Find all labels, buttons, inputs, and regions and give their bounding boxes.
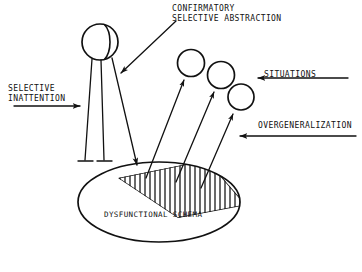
label-confirmatory-line2: SELECTIVE ABSTRACTION: [172, 14, 282, 24]
confirmatory-selective-abstraction-arrow: [121, 21, 176, 73]
selective-inattention-filter: [82, 24, 118, 60]
blocked-path-1: [85, 59, 92, 160]
blocked-path-2: [101, 60, 104, 160]
label-selective-inattention: SELECTIVE INATTENTION: [8, 84, 65, 104]
situation-circle-1: [178, 50, 205, 77]
label-confirmatory-line1: CONFIRMATORY: [172, 4, 235, 13]
passing-path: [112, 58, 137, 165]
situation-circle-2: [208, 62, 235, 89]
situation-circle-3: [228, 84, 254, 110]
label-overgeneralization: OVERGENERALIZATION: [258, 121, 352, 131]
schema-diagram-svg: [0, 0, 362, 272]
dysfunctional-schema-ellipse: [78, 162, 240, 242]
label-situations: SITUATIONS: [264, 70, 316, 80]
diagram-canvas: SELECTIVE INATTENTION CONFIRMATORY SELEC…: [0, 0, 362, 272]
label-selective-inattention-line2: INATTENTION: [8, 94, 65, 104]
label-dysfunctional-schema: DYSFUNCTIONAL SCHEMA: [104, 210, 202, 220]
label-confirmatory-selective-abstraction: CONFIRMATORY SELECTIVE ABSTRACTION: [172, 4, 282, 24]
label-selective-inattention-line1: SELECTIVE: [8, 84, 55, 93]
